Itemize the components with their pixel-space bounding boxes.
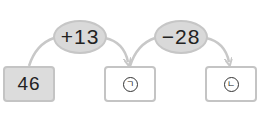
start-box: 46 (3, 66, 55, 102)
start-value: 46 (17, 73, 40, 95)
operation-bubble-add: +13 (53, 20, 107, 54)
operation-label: +13 (61, 25, 100, 49)
operation-bubble-subtract: −28 (154, 20, 208, 54)
result-box-1[interactable]: ㄱ (104, 66, 156, 102)
arrow-1-in (29, 38, 54, 66)
blank-marker-nieun: ㄴ (224, 77, 239, 92)
arrows (0, 0, 260, 120)
operation-label: −28 (162, 25, 201, 49)
arrow-1-out (105, 38, 128, 62)
arrow-2-in (130, 38, 155, 66)
arrow-2-out (206, 38, 229, 62)
result-box-2[interactable]: ㄴ (205, 66, 257, 102)
blank-marker-giyeok: ㄱ (123, 77, 138, 92)
